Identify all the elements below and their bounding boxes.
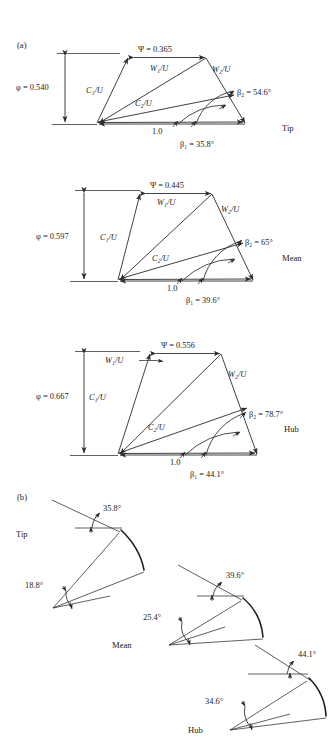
tip-w2-label: W₂/U bbox=[212, 65, 231, 74]
hub-c2-label: C₂/U bbox=[148, 423, 166, 432]
figure-canvas: (a) φ = 0.540 Ψ = 0.365 1.0 C₁/U W₁/U C₂… bbox=[0, 0, 332, 748]
tip-beta2-label: β₂ = 54.6° bbox=[237, 88, 271, 97]
hub-base-label: 1.0 bbox=[170, 458, 180, 467]
mean-c2-vector bbox=[119, 279, 251, 280]
hub-blade-station-label: Hub bbox=[188, 725, 203, 735]
mean-w2-label: W₂/U bbox=[221, 205, 240, 214]
panel-a-label: (a) bbox=[17, 40, 27, 50]
hub-blade-inlet-angle-label: 44.1° bbox=[298, 650, 316, 659]
tip-station-label: Tip bbox=[282, 123, 294, 133]
hub-blade-outlet-angle-label: 34.6° bbox=[205, 697, 223, 706]
mean-station-label: Mean bbox=[282, 253, 302, 263]
mean-beta1-label: β₁ = 39.6° bbox=[186, 296, 220, 305]
mean-psi-label: Ψ = 0.445 bbox=[150, 181, 184, 190]
mean-blade-outlet-angle-label: 25.4° bbox=[143, 613, 161, 622]
page-background bbox=[0, 0, 332, 748]
mean-beta2-label: β₂ = 65° bbox=[245, 238, 273, 247]
tip-blade-station-label: Tip bbox=[16, 529, 28, 539]
tip-c2-vector bbox=[98, 122, 243, 123]
tip-c2-label: C₂/U bbox=[135, 99, 153, 108]
hub-c1-label: C₁/U bbox=[89, 393, 107, 402]
hub-phi-label: φ = 0.667 bbox=[36, 392, 69, 401]
mean-base-label: 1.0 bbox=[167, 284, 177, 293]
tip-beta1-label: β₁ = 35.8° bbox=[180, 140, 214, 149]
hub-station-label: Hub bbox=[284, 424, 299, 434]
tip-phi-label: φ = 0.540 bbox=[16, 83, 49, 92]
mean-c1-label: C₁/U bbox=[100, 233, 118, 242]
tip-blade-outlet-angle-label: 18.8° bbox=[25, 581, 43, 590]
mean-w1-label: W₁/U bbox=[157, 198, 176, 207]
hub-psi-label: Ψ = 0.556 bbox=[161, 341, 195, 350]
tip-base-label: 1.0 bbox=[152, 127, 162, 136]
panel-b-label: (b) bbox=[17, 492, 27, 502]
tip-psi-label: Ψ = 0.365 bbox=[138, 45, 172, 54]
mean-c2-label: C₂/U bbox=[152, 254, 170, 263]
mean-blade-station-label: Mean bbox=[112, 640, 132, 650]
hub-w2-label: W₂/U bbox=[228, 370, 247, 379]
tip-blade-inlet-angle-label: 35.8° bbox=[103, 504, 121, 513]
hub-w1-label: W₁/U bbox=[105, 356, 124, 365]
hub-beta2-label: β₂ = 78.7° bbox=[249, 410, 283, 419]
tip-c1-label: C₁/U bbox=[86, 86, 104, 95]
hub-beta1-label: β₁ = 44.1° bbox=[190, 470, 224, 479]
figure-svg: (a) φ = 0.540 Ψ = 0.365 1.0 C₁/U W₁/U C₂… bbox=[0, 0, 332, 748]
mean-blade-inlet-angle-label: 39.6° bbox=[226, 571, 244, 580]
tip-w1-label: W₁/U bbox=[150, 64, 169, 73]
mean-phi-label: φ = 0.597 bbox=[36, 232, 69, 241]
